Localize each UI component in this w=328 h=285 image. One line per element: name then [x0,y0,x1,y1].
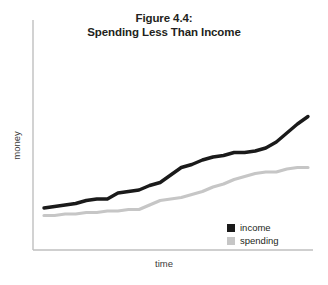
legend-label-spending: spending [240,234,279,247]
plot-area [0,0,328,285]
legend-label-income: income [240,221,271,234]
chart-legend: income spending [227,221,279,247]
legend-item-spending: spending [227,234,279,247]
figure-container: Figure 4.4: Spending Less Than Income mo… [0,0,328,285]
legend-item-income: income [227,221,279,234]
line-series-income [44,117,308,209]
line-series-spending [44,168,308,216]
legend-swatch-income-icon [227,224,235,232]
legend-swatch-spending-icon [227,237,235,245]
